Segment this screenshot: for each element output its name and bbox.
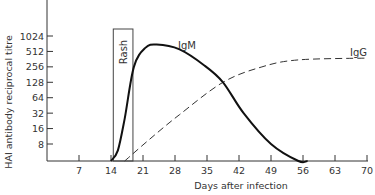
igg-series-line: [125, 58, 367, 161]
y-tick-label: 512: [26, 46, 44, 57]
y-tick-label: 256: [26, 61, 44, 72]
x-tick-label: 7: [76, 165, 82, 176]
y-axis-title: HAI antibody reciprocal titre: [3, 35, 14, 169]
x-tick-label: 49: [265, 165, 277, 176]
x-tick-label: 63: [329, 165, 341, 176]
x-tick-label: 14: [105, 165, 117, 176]
y-tick-label: 128: [26, 77, 44, 88]
rash-label: Rash: [118, 40, 129, 64]
x-tick-label: 42: [233, 165, 245, 176]
x-ticks: 7142128354249566370: [76, 155, 373, 176]
igm-series-line: [111, 44, 308, 162]
y-tick-label: 8: [38, 139, 44, 150]
antibody-titre-chart: 81632641282565121024 7142128354249566370…: [0, 0, 375, 195]
y-ticks: 81632641282565121024: [20, 31, 53, 150]
x-axis-title: Days after infection: [194, 180, 288, 191]
y-tick-label: 32: [32, 108, 44, 119]
x-tick-label: 28: [169, 165, 181, 176]
y-tick-label: 16: [32, 123, 44, 134]
igm-label: IgM: [178, 40, 196, 51]
y-tick-label: 64: [32, 92, 44, 103]
axes: [47, 0, 368, 161]
y-tick-label: 1024: [20, 31, 44, 42]
x-tick-label: 21: [137, 165, 149, 176]
rash-annotation: Rash: [113, 29, 133, 161]
x-tick-label: 56: [297, 165, 309, 176]
x-tick-label: 35: [201, 165, 213, 176]
x-tick-label: 70: [361, 165, 373, 176]
igg-label: IgG: [350, 47, 367, 58]
